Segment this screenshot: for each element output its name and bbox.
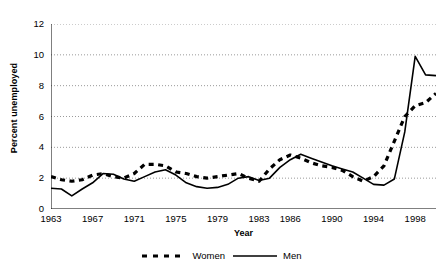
gridlines — [51, 24, 436, 178]
legend-label-men: Men — [283, 250, 301, 261]
x-tick-label: 1990 — [321, 213, 342, 225]
x-tick-label: 1963 — [40, 213, 61, 225]
x-tick-label: 1971 — [124, 213, 145, 225]
x-tick-label: 1967 — [82, 213, 103, 225]
y-axis-tick-labels: 024681012 — [22, 0, 48, 215]
x-tick-label: 1975 — [165, 213, 186, 225]
plot-area — [51, 24, 436, 209]
y-axis-title-text: Percent unemployed — [9, 62, 19, 152]
unemployment-line-chart: Percent unemployed 024681012 19631967197… — [0, 0, 443, 278]
data-series-layer — [51, 56, 436, 196]
legend-item-men: Men — [232, 250, 301, 261]
y-tick-label: 10 — [22, 50, 48, 60]
y-tick-label: 8 — [22, 81, 48, 91]
legend-swatch-dashed — [141, 251, 187, 261]
x-axis-tick-labels: 1963196719711975197919831986199019941998 — [51, 210, 436, 226]
y-tick-label: 6 — [22, 112, 48, 122]
legend-item-women: Women — [141, 250, 225, 261]
legend-swatch-solid — [232, 251, 278, 261]
x-tick-label: 1979 — [207, 213, 228, 225]
x-tick-label: 1983 — [249, 213, 270, 225]
x-tick-label: 1998 — [405, 213, 426, 225]
y-tick-label: 12 — [22, 19, 48, 29]
legend-label-women: Women — [192, 250, 225, 261]
y-tick-label: 2 — [22, 173, 48, 183]
x-axis-title: Year — [51, 228, 436, 238]
plot-svg — [51, 24, 436, 209]
x-tick-label: 1986 — [280, 213, 301, 225]
series-line-women — [51, 93, 436, 181]
chart-legend: Women Men — [0, 250, 443, 261]
x-tick-label: 1994 — [363, 213, 384, 225]
y-tick-label: 4 — [22, 142, 48, 152]
